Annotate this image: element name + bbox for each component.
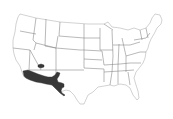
state-borders [13,14,162,104]
us-map [0,0,173,119]
small-inland-area [38,64,44,68]
